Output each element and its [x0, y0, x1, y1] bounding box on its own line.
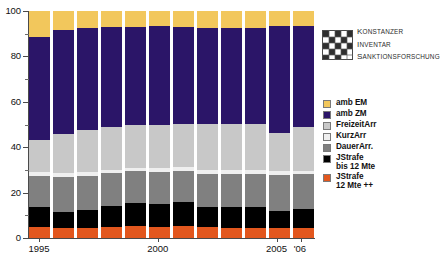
x-axis-label: '06 — [294, 243, 306, 254]
bar-2006 — [293, 11, 314, 238]
x-axis-line — [28, 238, 315, 239]
legend-item: JStrafe bis 12 Mte — [323, 154, 413, 171]
y-axis-label: 60 — [0, 96, 21, 107]
bar-segment — [269, 228, 290, 238]
legend-swatch — [323, 111, 331, 119]
bar-segment — [149, 125, 170, 168]
bar-segment — [221, 124, 242, 170]
y-axis-label: 40 — [0, 141, 21, 152]
legend-item: amb EM — [323, 99, 413, 108]
bar-segment — [149, 204, 170, 226]
legend-item: DauerArr. — [323, 143, 413, 152]
bar-segment — [221, 28, 242, 124]
bar-2002 — [197, 11, 218, 238]
bar-2003 — [221, 11, 242, 238]
legend-swatch — [323, 174, 331, 182]
x-axis-label: 2000 — [147, 243, 168, 254]
bar-segment — [53, 30, 74, 134]
logo: KONSTANZER INVENTAR SANKTIONSFORSCHUNG — [322, 26, 440, 64]
y-axis-tick — [23, 193, 29, 194]
bar-segment — [77, 11, 98, 28]
bar-segment — [29, 176, 50, 208]
bar-segment — [173, 226, 194, 238]
logo-line-2: INVENTAR — [357, 39, 440, 52]
bar-segment — [149, 172, 170, 205]
bar-segment — [101, 173, 122, 206]
bar-segment — [197, 124, 218, 170]
x-axis-tick — [158, 238, 159, 242]
bar-2004 — [245, 11, 266, 238]
legend-label: amb ZM — [336, 110, 367, 119]
bar-segment — [53, 212, 74, 228]
bar-segment — [173, 202, 194, 226]
bar-segment — [53, 11, 74, 30]
y-axis-minor-tick — [25, 34, 29, 35]
bar-segment — [197, 28, 218, 125]
bar-segment — [149, 26, 170, 124]
bar-segment — [53, 228, 74, 238]
legend-label: amb EM — [336, 99, 367, 108]
bar-segment — [221, 174, 242, 207]
y-axis-label: 20 — [0, 187, 21, 198]
bar-segment — [101, 127, 122, 169]
bar-segment — [245, 28, 266, 124]
bar-segment — [101, 27, 122, 127]
legend-label: JStrafe 12 Mte ++ — [336, 173, 373, 190]
legend-swatch — [323, 122, 331, 130]
legend-swatch — [323, 155, 331, 163]
y-axis-tick — [23, 238, 29, 239]
y-axis-tick — [23, 56, 29, 57]
legend-swatch — [323, 100, 331, 108]
logo-grid-icon — [322, 30, 353, 60]
bar-segment — [77, 130, 98, 172]
bar-segment — [245, 228, 266, 238]
logo-line-1: KONSTANZER — [357, 26, 440, 39]
y-axis-label: 100 — [0, 5, 21, 16]
y-axis-minor-tick — [25, 125, 29, 126]
bar-segment — [101, 206, 122, 227]
bar-segment — [77, 210, 98, 228]
bar-segment — [53, 134, 74, 173]
x-axis-tick — [39, 238, 40, 242]
bar-segment — [293, 127, 314, 171]
bar-segment — [221, 228, 242, 238]
x-axis-tick — [301, 238, 302, 242]
bar-segment — [125, 27, 146, 125]
bar-2001 — [173, 11, 194, 238]
y-axis-label: 80 — [0, 50, 21, 61]
bar-segment — [293, 11, 314, 26]
bar-segment — [197, 207, 218, 228]
logo-line-3: SANKTIONSFORSCHUNG — [357, 51, 440, 64]
bar-segment — [29, 227, 50, 238]
bar-segment — [245, 174, 266, 207]
bar-segment — [293, 228, 314, 238]
bar-segment — [125, 11, 146, 27]
bar-segment — [245, 207, 266, 228]
bar-2000 — [149, 11, 170, 238]
bar-segment — [29, 140, 50, 171]
x-axis-label: 2005 — [266, 243, 287, 254]
bar-group — [29, 11, 314, 238]
legend-label: DauerArr. — [336, 143, 373, 152]
bar-segment — [293, 174, 314, 208]
bar-segment — [149, 11, 170, 26]
bar-segment — [29, 37, 50, 140]
bar-segment — [173, 11, 194, 27]
bar-segment — [77, 176, 98, 210]
plot-area — [29, 11, 314, 238]
x-axis-tick — [277, 238, 278, 242]
y-axis-minor-tick — [25, 215, 29, 216]
bar-segment — [197, 174, 218, 207]
bar-segment — [197, 11, 218, 28]
logo-line-1-rest: ONSTANZER — [363, 28, 404, 35]
y-axis-label: 0 — [0, 232, 21, 243]
legend-item: KurzArr — [323, 132, 413, 141]
bar-segment — [269, 211, 290, 229]
bar-segment — [77, 228, 98, 238]
y-axis-tick — [23, 102, 29, 103]
legend-item: amb ZM — [323, 110, 413, 119]
bar-segment — [245, 124, 266, 170]
bar-segment — [125, 125, 146, 168]
legend-item: JStrafe 12 Mte ++ — [323, 173, 413, 190]
x-axis-label: 1995 — [28, 243, 49, 254]
